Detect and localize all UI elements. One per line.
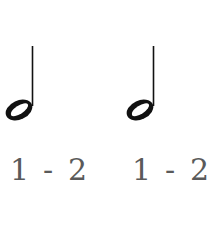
beat-separator: -	[165, 152, 175, 188]
beat-1: 1	[10, 152, 29, 188]
half-note-icon	[124, 44, 164, 124]
half-note-2	[124, 44, 164, 124]
beat-2: 2	[68, 152, 87, 188]
beat-1: 1	[132, 152, 151, 188]
half-note-1	[3, 44, 43, 124]
half-note-icon	[3, 44, 43, 124]
beat-2: 2	[190, 152, 209, 188]
beat-separator: -	[43, 152, 53, 188]
